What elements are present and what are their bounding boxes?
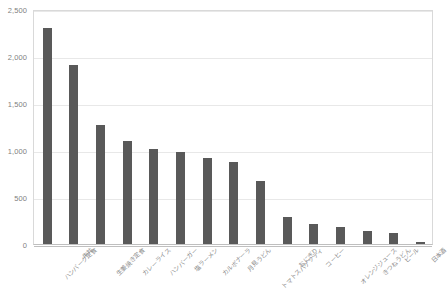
- bars-layer: [34, 11, 432, 244]
- bar-slot: [194, 11, 221, 244]
- plot-area: [33, 10, 433, 245]
- bar-slot: [301, 11, 328, 244]
- bar[interactable]: [96, 125, 105, 244]
- bar-slot: [141, 11, 168, 244]
- x-tick-label: 牛丼: [81, 246, 95, 260]
- bar-slot: [61, 11, 88, 244]
- y-tick-label: 1,000: [8, 147, 27, 156]
- bar[interactable]: [336, 227, 345, 244]
- x-tick-label: 日本酒: [429, 246, 447, 264]
- x-tick-label: カルボナーラ: [221, 246, 252, 277]
- bar-slot: [114, 11, 141, 244]
- bar-slot: [247, 11, 274, 244]
- bar-slot: [407, 11, 434, 244]
- bar-slot: [354, 11, 381, 244]
- bar[interactable]: [203, 158, 212, 244]
- bar-slot: [221, 11, 248, 244]
- bar[interactable]: [416, 242, 425, 244]
- bar-slot: [381, 11, 408, 244]
- bar[interactable]: [283, 217, 292, 244]
- bar-slot: [274, 11, 301, 244]
- x-axis: ハンバーグ定食牛丼生姜焼き定食カレーライスハンバーガー塩ラーメンカルボナーラ月見…: [33, 246, 433, 304]
- bar-slot: [34, 11, 61, 244]
- bar[interactable]: [69, 65, 78, 244]
- bar[interactable]: [43, 28, 52, 244]
- bar-slot: [327, 11, 354, 244]
- bar[interactable]: [149, 149, 158, 244]
- y-tick-label: 2,000: [8, 53, 27, 62]
- bar[interactable]: [256, 181, 265, 244]
- bar[interactable]: [176, 152, 185, 244]
- y-tick-label: 500: [14, 194, 27, 203]
- y-tick-label: 1,500: [8, 100, 27, 109]
- y-axis: 05001,0001,5002,0002,500: [0, 10, 31, 245]
- bar-slot: [167, 11, 194, 244]
- bar-slot: [87, 11, 114, 244]
- y-tick-label: 2,500: [8, 6, 27, 15]
- y-tick-label: 0: [23, 241, 27, 250]
- x-tick-label: ハンバーガー: [168, 246, 199, 277]
- bar[interactable]: [229, 162, 238, 244]
- bar[interactable]: [363, 231, 372, 244]
- bar[interactable]: [389, 233, 398, 244]
- bar[interactable]: [123, 141, 132, 244]
- x-tick-label: コーヒー: [324, 246, 346, 268]
- bar[interactable]: [309, 224, 318, 244]
